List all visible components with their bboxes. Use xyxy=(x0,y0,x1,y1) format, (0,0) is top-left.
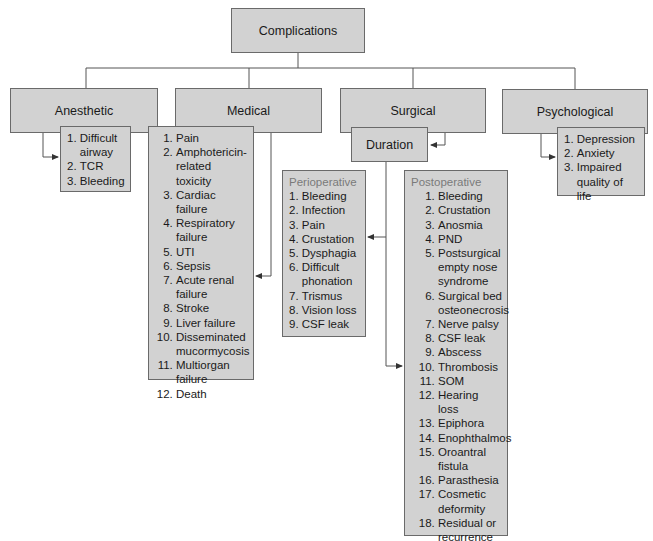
item-number: 5. xyxy=(417,246,438,289)
perioperative-title: Perioperative xyxy=(289,175,359,189)
list-item: 1. Pain xyxy=(155,131,247,145)
item-text: Anosmia xyxy=(438,218,501,232)
item-number: 8. xyxy=(155,301,176,315)
item-number: 12. xyxy=(417,388,438,416)
list-item: 6. Difficult phonation xyxy=(289,260,359,288)
item-text: Multiorgan failure xyxy=(176,358,247,386)
list-item: 2. Anxiety xyxy=(564,146,638,160)
item-number: 8. xyxy=(417,331,438,345)
list-item: 12. Death xyxy=(155,387,247,401)
item-number: 3. xyxy=(67,174,80,188)
item-text: Difficult airway xyxy=(80,131,124,159)
list-item: 7. Trismus xyxy=(289,289,359,303)
list-item: 13. Epiphora xyxy=(417,416,501,430)
item-text: Infection xyxy=(302,203,359,217)
medical-list: 1. Pain2. Amphotericin-related toxicity3… xyxy=(148,126,254,380)
item-text: Crustation xyxy=(438,203,501,217)
list-item: 9. Liver failure xyxy=(155,316,247,330)
category-label: Medical xyxy=(227,104,270,118)
item-number: 2. xyxy=(564,146,577,160)
list-item: 8. Stroke xyxy=(155,301,247,315)
item-number: 1. xyxy=(417,189,438,203)
list-item: 16. Parasthesia xyxy=(417,473,501,487)
list-item: 5. Dysphagia xyxy=(289,246,359,260)
item-text: Depression xyxy=(577,132,638,146)
item-number: 5. xyxy=(289,246,302,260)
category-label: Anesthetic xyxy=(55,104,113,118)
list-item: 5. Postsurgical empty nose syndrome xyxy=(417,246,501,289)
category-label: Psychological xyxy=(537,105,613,119)
item-number: 5. xyxy=(155,245,176,259)
item-number: 16. xyxy=(417,473,438,487)
item-number: 6. xyxy=(417,289,438,317)
item-number: 7. xyxy=(417,317,438,331)
item-text: Residual or recurrence xyxy=(438,516,501,541)
item-text: Thrombosis xyxy=(438,360,501,374)
item-text: Parasthesia xyxy=(438,473,501,487)
list-item: 3. Impaired quality of life xyxy=(564,160,638,203)
list-item: 11. Multiorgan failure xyxy=(155,358,247,386)
item-text: Pain xyxy=(176,131,247,145)
psychological-list: 1. Depression2. Anxiety3. Impaired quali… xyxy=(557,127,645,196)
item-text: TCR xyxy=(80,159,124,173)
item-number: 15. xyxy=(417,445,438,473)
list-item: 10. Disseminated mucormycosis xyxy=(155,330,247,358)
item-text: Acute renal failure xyxy=(176,273,247,301)
item-number: 3. xyxy=(155,188,176,216)
list-item: 11. SOM xyxy=(417,374,501,388)
list-item: 12. Hearing loss xyxy=(417,388,501,416)
duration-label: Duration xyxy=(366,138,413,152)
list-item: 7. Nerve palsy xyxy=(417,317,501,331)
item-text: Sepsis xyxy=(176,259,247,273)
item-number: 11. xyxy=(417,374,438,388)
item-text: Epiphora xyxy=(438,416,501,430)
item-text: Disseminated mucormycosis xyxy=(176,330,249,358)
item-text: Cardiac failure xyxy=(176,188,247,216)
list-item: 8. Vision loss xyxy=(289,303,359,317)
root-label: Complications xyxy=(259,24,338,38)
list-item: 4. Respiratory failure xyxy=(155,216,247,244)
item-text: PND xyxy=(438,232,501,246)
item-text: Postsurgical empty nose syndrome xyxy=(438,246,501,289)
item-text: Surgical bed osteonecrosis xyxy=(438,289,509,317)
item-number: 14. xyxy=(417,431,438,445)
list-item: 3. Bleeding xyxy=(67,174,124,188)
item-text: Vision loss xyxy=(302,303,359,317)
item-number: 18. xyxy=(417,516,438,541)
item-text: Trismus xyxy=(302,289,359,303)
list-item: 17. Cosmetic deformity xyxy=(417,487,501,515)
list-item: 5. UTI xyxy=(155,245,247,259)
list-item: 1. Difficult airway xyxy=(67,131,124,159)
list-item: 3. Anosmia xyxy=(417,218,501,232)
item-number: 3. xyxy=(417,218,438,232)
item-number: 7. xyxy=(289,289,302,303)
duration-box: Duration xyxy=(351,127,428,162)
item-number: 11. xyxy=(155,358,176,386)
list-item: 6. Surgical bed osteonecrosis xyxy=(417,289,501,317)
item-number: 7. xyxy=(155,273,176,301)
item-number: 10. xyxy=(155,330,176,358)
item-text: Stroke xyxy=(176,301,247,315)
item-text: Impaired quality of life xyxy=(577,160,638,203)
item-number: 2. xyxy=(289,203,302,217)
item-number: 2. xyxy=(67,159,80,173)
item-text: Dysphagia xyxy=(302,246,359,260)
item-text: Liver failure xyxy=(176,316,247,330)
category-label: Surgical xyxy=(390,104,435,118)
item-text: SOM xyxy=(438,374,501,388)
list-item: 14. Enophthalmos xyxy=(417,431,501,445)
item-number: 6. xyxy=(155,259,176,273)
item-text: CSF leak xyxy=(438,331,501,345)
item-number: 1. xyxy=(289,189,302,203)
list-item: 9. CSF leak xyxy=(289,317,359,331)
item-number: 9. xyxy=(289,317,302,331)
list-item: 1. Depression xyxy=(564,132,638,146)
item-number: 4. xyxy=(417,232,438,246)
item-number: 2. xyxy=(155,145,176,188)
item-text: Anxiety xyxy=(577,146,638,160)
item-number: 1. xyxy=(155,131,176,145)
item-number: 12. xyxy=(155,387,176,401)
item-text: Bleeding xyxy=(302,189,359,203)
list-item: 6. Sepsis xyxy=(155,259,247,273)
item-text: Abscess xyxy=(438,345,501,359)
